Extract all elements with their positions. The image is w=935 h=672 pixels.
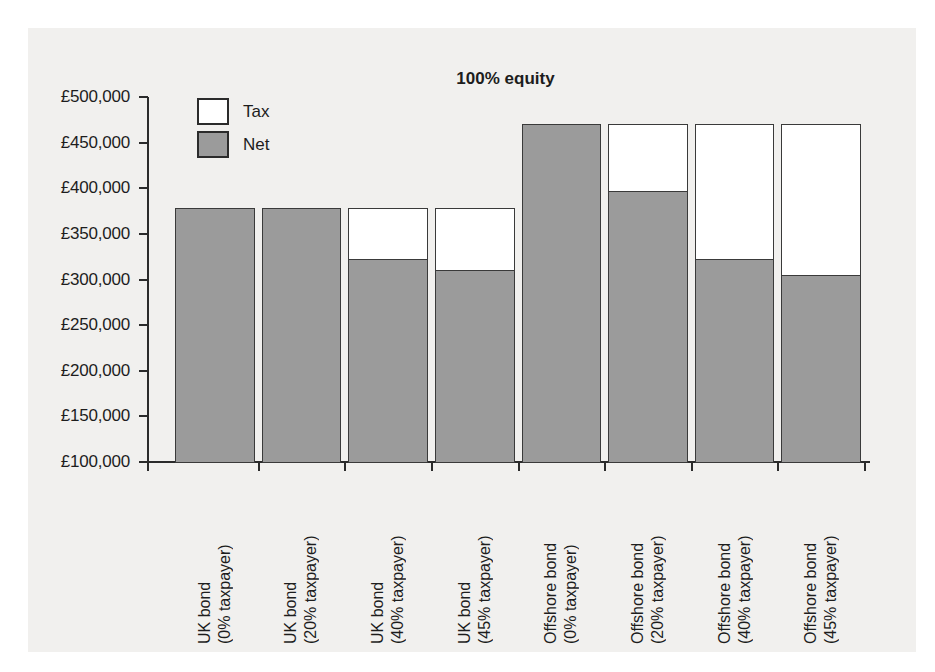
y-axis-tick-label: £250,000 bbox=[26, 316, 130, 333]
x-axis-category-label: Offshore bond(0% taxpayer) bbox=[522, 474, 602, 644]
x-axis-category-label-line: Offshore bond bbox=[716, 474, 734, 644]
x-axis-category-label-line: (20% taxpayer) bbox=[302, 474, 320, 644]
chart-figure: 100% equity £500,000£450,000£400,000£350… bbox=[0, 0, 935, 672]
x-axis-tick-mark bbox=[691, 463, 693, 471]
y-axis-tick-label: £450,000 bbox=[26, 134, 130, 151]
x-axis-tick-mark bbox=[604, 463, 606, 471]
bar-segment-net bbox=[175, 208, 255, 463]
y-axis-tick-mark bbox=[139, 142, 148, 144]
x-axis-category-label-line: (20% taxpayer) bbox=[649, 474, 667, 644]
bar-segment-net bbox=[348, 259, 428, 463]
x-axis-tick-mark bbox=[258, 463, 260, 471]
bar-segment-net bbox=[435, 270, 515, 463]
y-axis-tick-mark bbox=[139, 370, 148, 372]
bar-column bbox=[608, 97, 688, 462]
x-axis-category-label-line: (45% taxpayer) bbox=[476, 474, 494, 644]
legend-item-tax: Tax bbox=[197, 95, 269, 128]
x-axis-category-label-line: UK bond bbox=[196, 474, 214, 644]
x-axis-category-label: UK bond(40% taxpayer) bbox=[348, 474, 428, 644]
x-axis-category-label-line: UK bond bbox=[456, 474, 474, 644]
y-axis-tick-label: £300,000 bbox=[26, 271, 130, 288]
x-axis-tick-mark bbox=[864, 463, 866, 471]
bar-column bbox=[781, 97, 861, 462]
bar-column bbox=[348, 97, 428, 462]
bar-segment-tax bbox=[348, 208, 428, 260]
x-axis-tick-mark bbox=[344, 463, 346, 471]
x-axis-tick-mark bbox=[518, 463, 520, 471]
y-axis-tick-mark bbox=[139, 415, 148, 417]
x-axis-category-label-line: Offshore bond bbox=[542, 474, 560, 644]
bar-column bbox=[435, 97, 515, 462]
legend-label-tax: Tax bbox=[243, 102, 269, 122]
y-axis-tick-mark bbox=[139, 187, 148, 189]
legend-label-net: Net bbox=[243, 135, 269, 155]
y-axis-tick-mark bbox=[139, 233, 148, 235]
x-axis-category-label-line: Offshore bond bbox=[802, 474, 820, 644]
x-axis-category-label: UK bond(20% taxpayer) bbox=[262, 474, 342, 644]
legend-swatch-tax-icon bbox=[197, 98, 229, 125]
y-axis-tick-label: £150,000 bbox=[26, 407, 130, 424]
bar-segment-net bbox=[695, 259, 775, 463]
bar-column bbox=[695, 97, 775, 462]
x-axis-category-label-line: (40% taxpayer) bbox=[736, 474, 754, 644]
x-axis-category-label-line: (40% taxpayer) bbox=[389, 474, 407, 644]
x-axis-category-label-line: UK bond bbox=[369, 474, 387, 644]
bar-segment-tax bbox=[781, 124, 861, 276]
plot-area: £500,000£450,000£400,000£350,000£300,000… bbox=[0, 0, 935, 672]
bar-segment-net bbox=[522, 124, 602, 463]
y-axis-tick-label: £200,000 bbox=[26, 362, 130, 379]
bar-segment-net bbox=[781, 275, 861, 463]
x-axis-category-label-line: (0% taxpayer) bbox=[216, 474, 234, 644]
x-axis-category-label-line: UK bond bbox=[282, 474, 300, 644]
y-axis-tick-mark bbox=[139, 96, 148, 98]
x-axis-category-label-line: (45% taxpayer) bbox=[822, 474, 840, 644]
x-axis-category-label-line: (0% taxpayer) bbox=[562, 474, 580, 644]
x-axis-category-label: Offshore bond(45% taxpayer) bbox=[781, 474, 861, 644]
x-axis-tick-mark bbox=[147, 463, 149, 471]
x-axis-category-label-line: Offshore bond bbox=[629, 474, 647, 644]
x-axis-tick-mark bbox=[777, 463, 779, 471]
legend-item-net: Net bbox=[197, 128, 269, 161]
y-axis-tick-label: £400,000 bbox=[26, 179, 130, 196]
bar-segment-tax bbox=[608, 124, 688, 192]
bar-segment-net bbox=[608, 191, 688, 463]
bar-column bbox=[262, 97, 342, 462]
x-axis-tick-mark bbox=[431, 463, 433, 471]
x-axis-category-label: Offshore bond(20% taxpayer) bbox=[608, 474, 688, 644]
chart-legend: Tax Net bbox=[197, 95, 269, 161]
bar-segment-tax bbox=[435, 208, 515, 271]
legend-swatch-net-icon bbox=[197, 131, 229, 158]
y-axis-tick-mark bbox=[139, 324, 148, 326]
y-axis-tick-label: £500,000 bbox=[26, 88, 130, 105]
y-axis-tick-label: £100,000 bbox=[26, 453, 130, 470]
bar-column bbox=[522, 97, 602, 462]
x-axis-category-label: UK bond(0% taxpayer) bbox=[175, 474, 255, 644]
bar-segment-tax bbox=[695, 124, 775, 260]
x-axis-category-label: UK bond(45% taxpayer) bbox=[435, 474, 515, 644]
bar-segment-net bbox=[262, 208, 342, 463]
x-axis-category-label: Offshore bond(40% taxpayer) bbox=[695, 474, 775, 644]
y-axis-tick-label: £350,000 bbox=[26, 225, 130, 242]
y-axis-tick-mark bbox=[139, 279, 148, 281]
